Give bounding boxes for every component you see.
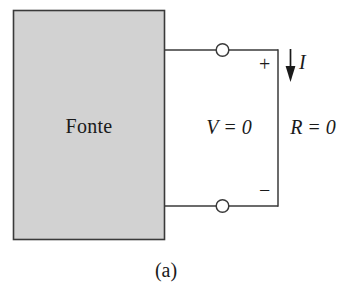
bottom-terminal-circle	[216, 200, 229, 213]
positive-polarity-label: +	[259, 54, 270, 74]
current-label: I	[299, 52, 306, 72]
negative-polarity-label: −	[259, 180, 270, 200]
source-block-label: Fonte	[0, 116, 178, 136]
circuit-figure: Fonte V = 0 R = 0 I + − (a)	[0, 0, 345, 305]
current-arrow-head	[286, 66, 296, 82]
resistance-label: R = 0	[282, 117, 344, 137]
voltage-label: V = 0	[183, 117, 275, 137]
top-terminal-circle	[216, 44, 229, 57]
figure-caption: (a)	[0, 260, 332, 280]
